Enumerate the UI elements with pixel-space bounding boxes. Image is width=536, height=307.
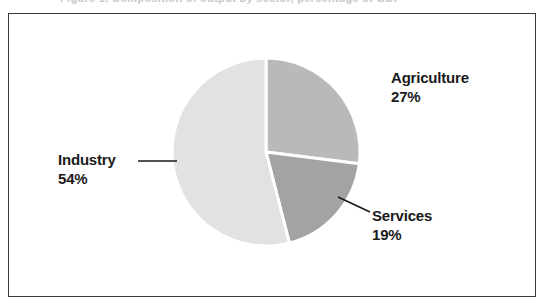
pie-label-industry: Industry 54% [58, 150, 116, 188]
pie-label-industry-name: Industry [58, 150, 116, 169]
pie-slice-agriculture[interactable] [266, 58, 360, 164]
pie-label-agriculture-value: 27% [391, 87, 469, 106]
pie-label-services: Services 19% [372, 206, 432, 244]
pie-label-agriculture: Agriculture 27% [391, 68, 469, 106]
pie-label-services-name: Services [372, 206, 432, 225]
pie-label-industry-value: 54% [58, 169, 116, 188]
pie-label-agriculture-name: Agriculture [391, 68, 469, 87]
pie-slices [172, 58, 360, 246]
pie-label-services-value: 19% [372, 225, 432, 244]
